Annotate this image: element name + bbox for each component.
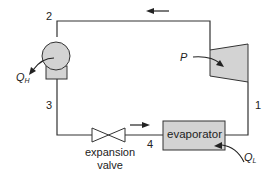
power-label: P — [180, 52, 187, 63]
state-point-1: 1 — [255, 100, 261, 111]
pipe-right — [225, 82, 248, 135]
condenser-icon — [29, 42, 70, 79]
heat-out-label: QH — [16, 72, 30, 84]
state-point-2: 2 — [46, 11, 52, 22]
expansion-valve-icon — [92, 128, 125, 142]
flow-arrow-top — [146, 8, 169, 14]
evaporator-label: evaporator — [167, 129, 222, 141]
valve-label-line1: expansion — [80, 146, 140, 159]
heat-in-label: QL — [244, 152, 256, 164]
flow-arrow-bottom — [130, 122, 150, 128]
state-point-4: 4 — [147, 139, 153, 150]
piping — [57, 21, 248, 135]
expansion-valve-label: expansion valve — [80, 146, 140, 172]
pipe-top — [57, 21, 210, 50]
valve-label-line2: valve — [80, 159, 140, 172]
pipe-left — [57, 79, 92, 135]
compressor-icon — [193, 44, 248, 82]
state-point-3: 3 — [46, 100, 52, 111]
